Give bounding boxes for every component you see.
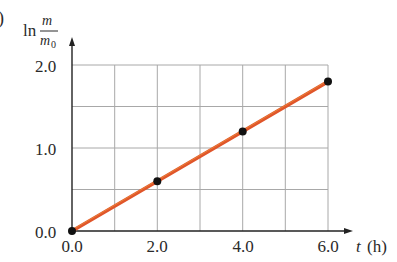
y-tick-label-0: 0.0 [35, 223, 56, 242]
y-axis-arrow-icon [69, 37, 75, 46]
x-tick-label-6: 6.0 [317, 237, 338, 256]
x-axis-arrow-icon [344, 228, 353, 234]
x-tick-label-2: 2.0 [146, 237, 167, 256]
x-tick-label-4: 4.0 [232, 237, 253, 256]
data-point [324, 78, 332, 86]
panel-label: ) [0, 8, 4, 29]
y-axis-label-ln: ln [23, 21, 37, 40]
grid [72, 65, 328, 231]
data-point [239, 127, 247, 135]
x-axis-label-unit: (h) [367, 237, 387, 256]
y-axis-label-numerator: m [42, 13, 52, 28]
y-axis-label-subscript: 0 [51, 39, 56, 50]
y-axis-label: ln m m 0 [23, 13, 58, 50]
x-axis-label-var: t [356, 237, 362, 256]
chart: ) ln m m 0 2.0 1.0 0.0 0.0 2.0 4.0 6.0 t… [0, 0, 397, 262]
y-tick-label-1: 1.0 [35, 140, 56, 159]
y-axis-label-denominator: m [40, 33, 50, 48]
data-point [153, 177, 161, 185]
data-point [68, 227, 76, 235]
axes [69, 37, 353, 234]
x-tick-label-0: 0.0 [61, 237, 82, 256]
y-tick-label-2: 2.0 [35, 57, 56, 76]
